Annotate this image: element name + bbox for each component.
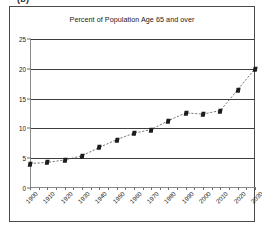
data-point-marker bbox=[253, 67, 257, 72]
chart-title: Percent of Population Age 65 and over bbox=[10, 15, 254, 24]
x-axis-tick-label: 1930 bbox=[76, 190, 91, 205]
data-point-marker bbox=[62, 158, 66, 163]
x-axis-tick-label: 1920 bbox=[59, 190, 74, 205]
data-point-marker bbox=[132, 131, 136, 136]
x-axis-minor-tick-mark bbox=[125, 188, 126, 190]
x-axis-tick-label: 2000 bbox=[197, 190, 212, 205]
chart-frame: Percent of Population Age 65 and over 05… bbox=[9, 6, 255, 222]
x-axis-minor-tick-mark bbox=[160, 188, 161, 190]
data-point-marker bbox=[80, 154, 84, 159]
x-axis-minor-tick-mark bbox=[229, 188, 230, 190]
x-axis-tick-label: 1910 bbox=[42, 190, 57, 205]
x-axis-tick-label: 1960 bbox=[128, 190, 143, 205]
data-point-marker bbox=[235, 87, 239, 92]
y-axis-tick-label: 20 bbox=[19, 65, 26, 72]
y-axis-tick-label: 0 bbox=[22, 185, 26, 192]
x-axis-tick-label: 1940 bbox=[93, 190, 108, 205]
x-axis-minor-tick-mark bbox=[56, 188, 57, 190]
y-axis-tick-label: 5 bbox=[22, 155, 26, 162]
x-axis-minor-tick-mark bbox=[194, 188, 195, 190]
x-axis-tick-label: 2030 bbox=[249, 190, 262, 205]
y-axis-tick-label: 15 bbox=[19, 95, 26, 102]
x-axis-minor-tick-mark bbox=[177, 188, 178, 190]
y-axis-tick-label: 10 bbox=[19, 125, 26, 132]
x-axis-minor-tick-mark bbox=[246, 188, 247, 190]
x-axis-minor-tick-mark bbox=[39, 188, 40, 190]
x-axis-tick-label: 2020 bbox=[232, 190, 247, 205]
data-point-marker bbox=[28, 161, 32, 166]
x-axis-tick-label: 1980 bbox=[163, 190, 178, 205]
chart-figure: (b) Percent of Population Age 65 and ove… bbox=[0, 0, 262, 228]
x-axis-minor-tick-mark bbox=[143, 188, 144, 190]
x-axis-tick-label: 1950 bbox=[111, 190, 126, 205]
x-axis-minor-tick-mark bbox=[108, 188, 109, 190]
plot-area: 0510152025 19001910192019301940195019601… bbox=[30, 39, 255, 188]
x-axis-minor-tick-mark bbox=[212, 188, 213, 190]
data-point-marker bbox=[114, 137, 118, 142]
series-line bbox=[30, 39, 255, 188]
y-axis-tick-label: 25 bbox=[19, 36, 26, 43]
x-axis-tick-label: 2010 bbox=[215, 190, 230, 205]
x-axis-tick-label: 1970 bbox=[145, 190, 160, 205]
x-axis-tick-mark bbox=[255, 187, 256, 190]
x-axis-tick-label: 1900 bbox=[24, 190, 39, 205]
panel-label: (b) bbox=[17, 0, 29, 4]
x-axis-minor-tick-mark bbox=[73, 188, 74, 190]
x-axis-minor-tick-mark bbox=[91, 188, 92, 190]
x-axis-tick-label: 1990 bbox=[180, 190, 195, 205]
data-point-marker bbox=[184, 111, 188, 116]
